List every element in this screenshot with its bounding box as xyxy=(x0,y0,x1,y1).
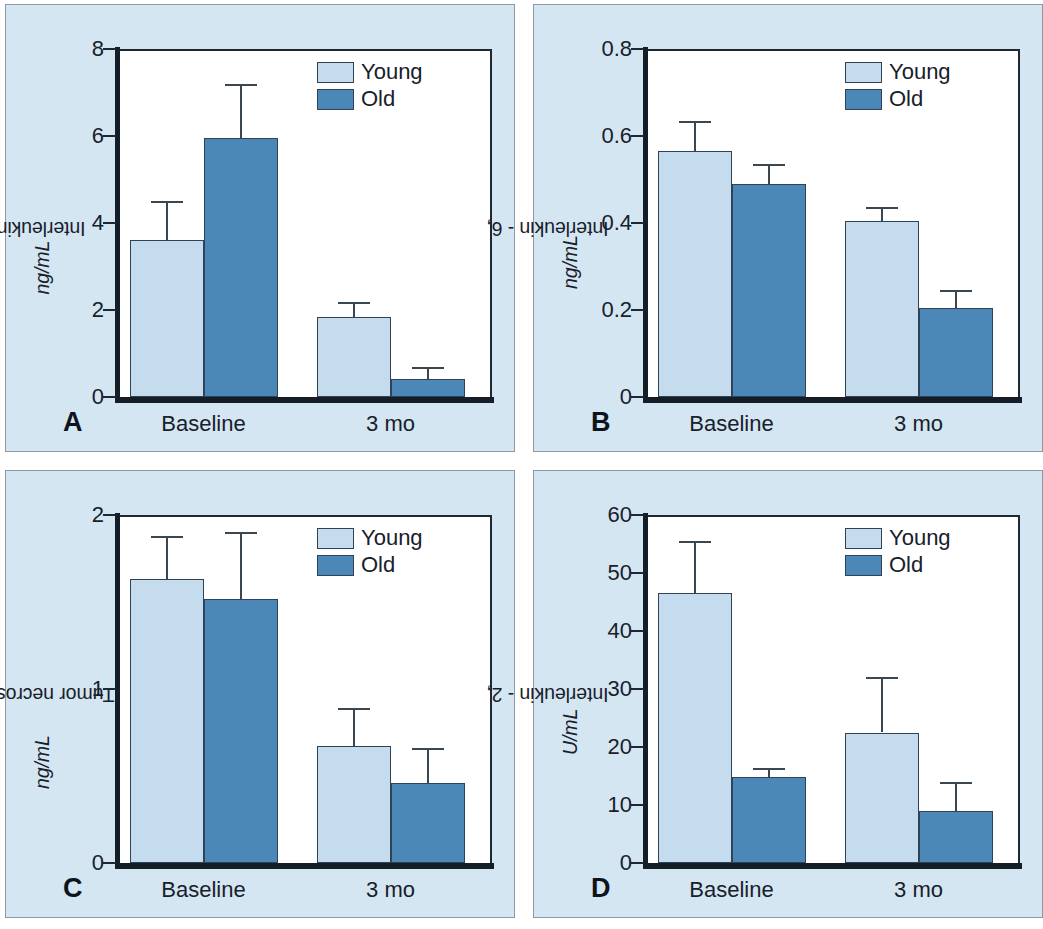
legend-item-young: Young xyxy=(317,527,423,549)
y-axis-ticks: 012 xyxy=(50,471,112,919)
legend-d: YoungOld xyxy=(845,527,951,576)
y-tick-label: 60 xyxy=(608,502,632,528)
legend-label-young: Young xyxy=(361,527,423,549)
x-axis-line xyxy=(643,863,1022,869)
legend-label-young: Young xyxy=(889,527,951,549)
y-tick-label: 40 xyxy=(608,618,632,644)
y-tick-label: 10 xyxy=(608,792,632,818)
legend-label-old: Old xyxy=(361,554,395,576)
y-tick-label: 0.8 xyxy=(601,36,632,62)
error-bar-cap xyxy=(225,84,257,86)
legend-item-old: Old xyxy=(845,88,951,110)
error-bar xyxy=(166,201,168,240)
error-bar xyxy=(955,782,957,811)
error-bar-cap xyxy=(151,201,183,203)
legend-item-young: Young xyxy=(317,61,423,83)
error-bar xyxy=(427,748,429,783)
chart-panel-a: Interleukin - 1β, ng/mL02468Baseline3 mo… xyxy=(5,4,515,452)
error-bar-cap xyxy=(940,290,972,292)
x-category-label: 3 mo xyxy=(366,411,415,437)
chart-panel-c: Tumor necrosis factor, ng/mL012Baseline3… xyxy=(5,470,515,918)
plot-area-b: Interleukin - 6, ng/mL00.20.40.60.8Basel… xyxy=(534,5,1042,451)
y-tick-mark xyxy=(631,514,644,516)
y-tick-mark xyxy=(631,572,644,574)
legend-b: YoungOld xyxy=(845,61,951,110)
bar-young-baseline xyxy=(130,240,204,397)
y-axis-ticks: 0102030405060 xyxy=(578,471,640,919)
error-bar-cap xyxy=(338,708,370,710)
y-tick-mark xyxy=(631,396,644,398)
bar-old-3-mo xyxy=(919,308,993,397)
y-tick-mark xyxy=(631,688,644,690)
y-tick-mark xyxy=(103,396,116,398)
legend-label-old: Old xyxy=(889,554,923,576)
y-tick-mark xyxy=(631,222,644,224)
error-bar-cap xyxy=(412,367,444,369)
legend-item-young: Young xyxy=(845,61,951,83)
error-bar-cap xyxy=(753,768,785,770)
y-axis-title-b: Interleukin - 6, ng/mL xyxy=(542,5,576,451)
x-category-label: 3 mo xyxy=(894,411,943,437)
legend-swatch-old xyxy=(317,555,354,576)
legend-c: YoungOld xyxy=(317,527,423,576)
error-bar-cap xyxy=(151,536,183,538)
x-category-label: Baseline xyxy=(161,411,245,437)
panel-letter-c: C xyxy=(63,873,83,904)
bar-young-3-mo xyxy=(317,317,391,397)
y-tick-mark xyxy=(631,630,644,632)
error-bar-cap xyxy=(679,121,711,123)
y-tick-label: 0.2 xyxy=(601,297,632,323)
bar-old-baseline xyxy=(732,184,806,397)
y-tick-label: 50 xyxy=(608,560,632,586)
x-category-label: 3 mo xyxy=(366,877,415,903)
y-tick-mark xyxy=(103,309,116,311)
legend-item-old: Old xyxy=(317,554,423,576)
legend-a: YoungOld xyxy=(317,61,423,110)
legend-swatch-old xyxy=(845,555,882,576)
bar-old-baseline xyxy=(732,777,806,863)
legend-label-old: Old xyxy=(889,88,923,110)
y-tick-label: 30 xyxy=(608,676,632,702)
error-bar-cap xyxy=(940,782,972,784)
error-bar-cap xyxy=(679,541,711,543)
chart-panel-d: Interleukin - 2, U/mL0102030405060Baseli… xyxy=(533,470,1043,918)
y-tick-label: 0.6 xyxy=(601,123,632,149)
error-bar-cap xyxy=(866,677,898,679)
error-bar xyxy=(768,164,770,184)
y-axis-ticks: 00.20.40.60.8 xyxy=(578,5,640,453)
bar-old-3-mo xyxy=(391,379,465,397)
panel-letter-a: A xyxy=(63,407,83,438)
error-bar xyxy=(694,121,696,151)
plot-area-d: Interleukin - 2, U/mL0102030405060Baseli… xyxy=(534,471,1042,917)
panel-letter-d: D xyxy=(591,873,611,904)
legend-label-young: Young xyxy=(361,61,423,83)
x-category-label: Baseline xyxy=(689,411,773,437)
y-tick-mark xyxy=(103,688,116,690)
legend-item-old: Old xyxy=(845,554,951,576)
bar-old-baseline xyxy=(204,138,278,397)
error-bar xyxy=(955,290,957,308)
plot-area-a: Interleukin - 1β, ng/mL02468Baseline3 mo… xyxy=(6,5,514,451)
y-tick-mark xyxy=(631,309,644,311)
error-bar xyxy=(694,541,696,593)
legend-label-old: Old xyxy=(361,88,395,110)
legend-swatch-old xyxy=(845,89,882,110)
y-tick-mark xyxy=(103,48,116,50)
error-bar xyxy=(240,532,242,598)
bar-young-baseline xyxy=(658,151,732,397)
y-axis-title-c: Tumor necrosis factor, ng/mL xyxy=(14,471,48,917)
error-bar xyxy=(166,536,168,580)
panel-letter-b: B xyxy=(591,407,611,438)
y-tick-mark xyxy=(631,804,644,806)
x-axis-line xyxy=(643,397,1022,403)
x-category-label: Baseline xyxy=(161,877,245,903)
error-bar xyxy=(353,302,355,316)
error-bar xyxy=(353,708,355,746)
legend-swatch-old xyxy=(317,89,354,110)
x-axis-line xyxy=(115,397,494,403)
bar-young-baseline xyxy=(658,593,732,863)
x-category-label: 3 mo xyxy=(894,877,943,903)
bar-young-3-mo xyxy=(845,733,919,864)
y-tick-label: 20 xyxy=(608,734,632,760)
